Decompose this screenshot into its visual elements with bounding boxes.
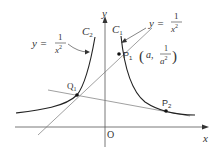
point-p2-label: P2 (162, 98, 172, 109)
x-axis-label: x (202, 132, 208, 144)
c2-arrow-head-icon (85, 50, 90, 55)
curve-c1-label: C1 (112, 23, 123, 37)
equation-c2-lhs: y = (31, 37, 47, 49)
equation-c1: y = 1 x2 (148, 11, 182, 34)
diagram: y x O C2 C1 y = 1 x2 y = 1 x2 P1 ( a, 1 … (0, 0, 223, 152)
point-p1-coord-a: a, (146, 49, 154, 60)
point-p1-name: P1 (123, 50, 133, 61)
equation-c2-denominator: x2 (54, 44, 62, 55)
c1-label-arrow (124, 28, 146, 41)
equation-c1-lhs: y = (148, 17, 164, 29)
equation-c2-numerator: 1 (58, 32, 63, 42)
equation-c1-numerator: 1 (174, 11, 179, 21)
equation-c1-denominator: x2 (170, 23, 178, 34)
curve-c2-label: C2 (82, 25, 93, 39)
point-p1-coord-denominator: a2 (160, 55, 168, 66)
point-q1 (75, 93, 79, 97)
curve-c1 (121, 36, 195, 115)
x-axis-arrow-icon (202, 125, 209, 130)
point-q1-label: Q1 (67, 81, 77, 92)
origin-label: O (107, 129, 114, 140)
point-p2 (164, 109, 168, 113)
equation-c2: y = 1 x2 (31, 32, 66, 55)
graph-svg: y x O C2 C1 y = 1 x2 y = 1 x2 P1 ( a, 1 … (0, 0, 223, 152)
point-p1-close-paren: ) (172, 48, 177, 65)
point-p1 (117, 52, 121, 56)
point-p1-coord-numerator: 1 (164, 44, 168, 53)
y-axis-label: y (101, 7, 107, 19)
point-p1-open-paren: ( (139, 48, 144, 65)
